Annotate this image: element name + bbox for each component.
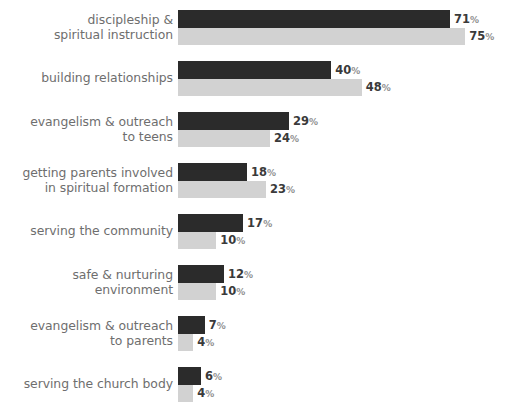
bar-value-label: 10% (216, 233, 245, 247)
bar-value-label: 48% (362, 80, 391, 94)
bar-pair: 71%75% (178, 9, 511, 46)
category-label: evangelism & outreach to parents (0, 318, 178, 349)
bar-dark (178, 214, 243, 232)
bar-row-dark: 18% (178, 163, 511, 181)
bar-value-label: 29% (289, 114, 318, 128)
bar-dark (178, 163, 247, 181)
bar-value-label: 12% (224, 267, 253, 281)
bar-value-label: 10% (216, 284, 245, 298)
bar-pair: 17%10% (178, 213, 511, 250)
bar-group: evangelism & outreach to parents7%4% (0, 311, 511, 355)
horizontal-bar-chart: discipleship & spiritual instruction71%7… (0, 0, 511, 412)
bar-row-light: 10% (178, 232, 511, 249)
bar-value-label: 17% (243, 216, 272, 230)
bar-value-label: 6% (201, 369, 222, 383)
bar-value-number: 29 (293, 114, 309, 128)
percent-sign: % (351, 66, 360, 76)
bar-value-label: 4% (193, 335, 214, 349)
bar-row-dark: 6% (178, 367, 511, 385)
bar-value-number: 10 (220, 284, 236, 298)
bar-value-label: 24% (270, 131, 299, 145)
bar-dark (178, 10, 450, 28)
bar-value-label: 18% (247, 165, 276, 179)
percent-sign: % (205, 389, 214, 399)
bar-value-label: 4% (193, 386, 214, 400)
percent-sign: % (267, 168, 276, 178)
bar-row-light: 23% (178, 181, 511, 198)
percent-sign: % (382, 83, 391, 93)
bar-value-label: 71% (450, 12, 479, 26)
percent-sign: % (213, 372, 222, 382)
percent-sign: % (470, 15, 479, 25)
bar-dark (178, 112, 289, 130)
bar-group: serving the community17%10% (0, 209, 511, 253)
bar-row-dark: 7% (178, 316, 511, 334)
bar-light (178, 283, 216, 300)
category-label: serving the community (0, 223, 178, 239)
category-label: getting parents involved in spiritual fo… (0, 165, 178, 196)
bar-group: evangelism & outreach to teens29%24% (0, 107, 511, 151)
bar-value-number: 23 (270, 182, 286, 196)
bar-row-light: 4% (178, 334, 511, 351)
bar-dark (178, 61, 331, 79)
bar-row-light: 24% (178, 130, 511, 147)
bar-value-number: 18 (251, 165, 267, 179)
bar-row-light: 4% (178, 385, 511, 402)
bar-light (178, 232, 216, 249)
bar-group: safe & nurturing environment12%10% (0, 260, 511, 304)
bar-value-number: 12 (228, 267, 244, 281)
bar-value-label: 7% (205, 318, 226, 332)
bar-value-label: 75% (465, 29, 494, 43)
category-label: serving the church body (0, 376, 178, 392)
bar-light (178, 334, 193, 351)
bar-light (178, 181, 266, 198)
percent-sign: % (244, 270, 253, 280)
bar-light (178, 130, 270, 147)
bar-value-number: 7 (209, 318, 217, 332)
bar-pair: 40%48% (178, 60, 511, 97)
bar-row-dark: 71% (178, 10, 511, 28)
category-label: building relationships (0, 70, 178, 86)
bar-value-number: 48 (366, 80, 382, 94)
bar-dark (178, 265, 224, 283)
percent-sign: % (286, 185, 295, 195)
percent-sign: % (236, 287, 245, 297)
bar-row-dark: 40% (178, 61, 511, 79)
bar-light (178, 28, 465, 45)
bar-pair: 6%4% (178, 366, 511, 403)
category-label: evangelism & outreach to teens (0, 114, 178, 145)
bar-row-dark: 29% (178, 112, 511, 130)
category-label: safe & nurturing environment (0, 267, 178, 298)
bar-row-light: 10% (178, 283, 511, 300)
percent-sign: % (263, 219, 272, 229)
bar-dark (178, 316, 205, 334)
bar-pair: 18%23% (178, 162, 511, 199)
bar-group: discipleship & spiritual instruction71%7… (0, 5, 511, 49)
bar-value-number: 6 (205, 369, 213, 383)
bar-pair: 12%10% (178, 264, 511, 301)
bar-pair: 7%4% (178, 315, 511, 352)
category-label: discipleship & spiritual instruction (0, 12, 178, 43)
bar-value-number: 17 (247, 216, 263, 230)
bar-value-label: 23% (266, 182, 295, 196)
bar-value-number: 10 (220, 233, 236, 247)
bar-row-light: 48% (178, 79, 511, 96)
bar-group: building relationships40%48% (0, 56, 511, 100)
bar-pair: 29%24% (178, 111, 511, 148)
percent-sign: % (290, 134, 299, 144)
bar-light (178, 385, 193, 402)
bar-row-light: 75% (178, 28, 511, 45)
bar-value-number: 40 (335, 63, 351, 77)
bar-dark (178, 367, 201, 385)
bar-group: getting parents involved in spiritual fo… (0, 158, 511, 202)
bar-row-dark: 17% (178, 214, 511, 232)
bar-group: serving the church body6%4% (0, 362, 511, 406)
bar-value-number: 24 (274, 131, 290, 145)
percent-sign: % (236, 236, 245, 246)
percent-sign: % (485, 32, 494, 42)
bar-row-dark: 12% (178, 265, 511, 283)
percent-sign: % (217, 321, 226, 331)
percent-sign: % (205, 338, 214, 348)
bar-value-number: 71 (454, 12, 470, 26)
bar-value-label: 40% (331, 63, 360, 77)
